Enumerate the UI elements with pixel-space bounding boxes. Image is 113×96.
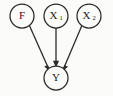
node-x2-subscript: 2 bbox=[92, 14, 95, 21]
node-x1-subscript: 1 bbox=[59, 14, 62, 21]
edge-f-to-y-line bbox=[29, 25, 49, 69]
node-x2-label: X bbox=[83, 9, 91, 21]
edge-x2-to-y bbox=[62, 26, 82, 72]
node-y[interactable]: Y bbox=[44, 66, 68, 90]
node-f-label: F bbox=[19, 9, 25, 21]
dag-figure: F X 1 X 2 Y bbox=[0, 0, 113, 96]
node-y-label: Y bbox=[52, 71, 60, 83]
node-x1-label: X bbox=[50, 9, 58, 21]
edge-x1-to-y bbox=[53, 28, 59, 68]
edge-x2-to-y-line bbox=[63, 26, 82, 70]
node-x2[interactable]: X 2 bbox=[77, 4, 101, 28]
edge-f-to-y bbox=[29, 25, 50, 71]
node-f[interactable]: F bbox=[10, 4, 34, 28]
node-x1[interactable]: X 1 bbox=[44, 4, 68, 28]
dag-canvas: F X 1 X 2 Y bbox=[0, 0, 113, 96]
edge-group bbox=[29, 25, 82, 71]
